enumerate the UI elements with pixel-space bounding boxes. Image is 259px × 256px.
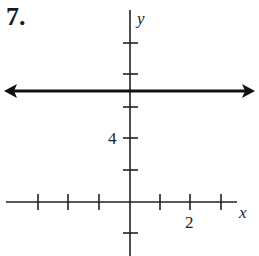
y-tick-label-4: 4 xyxy=(108,129,117,148)
y-axis-label: y xyxy=(135,9,145,28)
x-axis-label: x xyxy=(238,203,247,222)
coordinate-plane: y x 4 2 xyxy=(0,0,259,256)
x-tick-label-2: 2 xyxy=(185,213,194,232)
